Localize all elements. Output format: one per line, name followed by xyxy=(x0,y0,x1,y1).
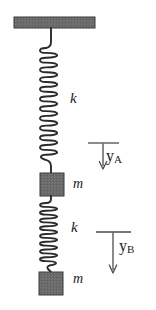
spring-constant-label-top: k xyxy=(70,91,77,106)
upper-mass-connector-wire xyxy=(45,160,51,173)
top-connector-wire xyxy=(46,28,51,48)
coordinate-subscript-yb: B xyxy=(127,243,135,255)
ceiling-support-icon xyxy=(14,17,95,28)
helical-spring-icon-top xyxy=(40,48,57,160)
coordinate-symbol-ya: y xyxy=(106,147,114,164)
coordinate-symbol-yb: y xyxy=(119,237,127,254)
helical-spring-icon-bottom xyxy=(40,203,57,265)
lower-spring-connector-wire xyxy=(46,196,51,203)
coordinate-label-ya: yA xyxy=(106,148,122,164)
coordinate-label-yb: yB xyxy=(119,238,135,254)
spring-constant-label-bottom: k xyxy=(71,220,78,235)
lower-mass-connector-wire xyxy=(47,265,51,272)
coordinate-subscript-ya: A xyxy=(114,153,122,165)
mass-block-icon-bottom xyxy=(39,272,63,295)
physics-figure: k m k m yA yB xyxy=(0,0,156,310)
mass-label-bottom: m xyxy=(73,272,83,286)
mass-label-top: m xyxy=(73,177,83,191)
mass-block-icon-top xyxy=(40,173,64,196)
figure-canvas xyxy=(0,0,156,310)
